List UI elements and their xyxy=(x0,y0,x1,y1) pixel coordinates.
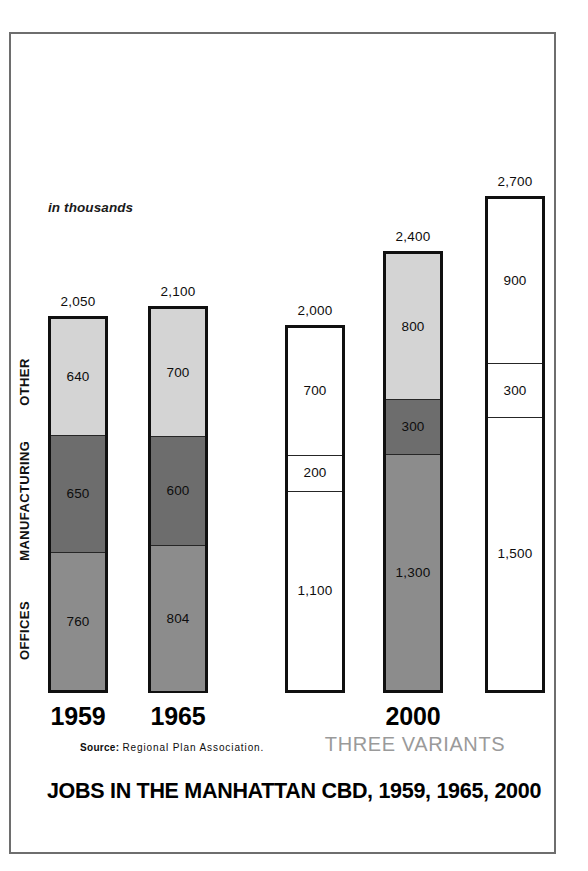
stacked-bar-2000-variant-b[interactable]: 800 300 1,300 xyxy=(383,251,443,693)
segment-value: 300 xyxy=(401,420,424,434)
chart-plot-area: in thousands OTHER MANUFACTURING OFFICES… xyxy=(0,0,588,871)
bar-segment-other: 640 xyxy=(51,319,105,435)
bar-segment-offices: 1,500 xyxy=(488,417,542,690)
segment-value: 760 xyxy=(66,615,89,629)
source-note: Source: Regional Plan Association. xyxy=(80,742,264,753)
segment-value: 300 xyxy=(503,384,526,398)
bar-segment-other: 800 xyxy=(386,254,440,399)
chart-page: in thousands OTHER MANUFACTURING OFFICES… xyxy=(0,0,588,871)
bar-segment-offices: 760 xyxy=(51,552,105,690)
segment-value: 650 xyxy=(66,487,89,501)
bar-segment-offices: 1,100 xyxy=(288,491,342,690)
stacked-bar-1959[interactable]: 640 650 760 xyxy=(48,316,108,693)
segment-value: 900 xyxy=(503,274,526,288)
source-lead: Source: xyxy=(80,742,119,753)
bar-segment-manufacturing: 600 xyxy=(151,436,205,545)
x-axis-label-2000: 2000 xyxy=(383,702,443,731)
axis-label-manufacturing: MANUFACTURING xyxy=(17,441,32,561)
stacked-bar-2000-variant-c[interactable]: 900 300 1,500 xyxy=(485,196,545,693)
segment-value: 1,500 xyxy=(498,547,533,561)
bar-total-label: 2,400 xyxy=(383,229,443,244)
bar-segment-manufacturing: 300 xyxy=(386,399,440,453)
x-axis-label-1959: 1959 xyxy=(48,702,108,731)
bar-total-label: 2,700 xyxy=(485,174,545,189)
bar-segment-other: 700 xyxy=(288,328,342,455)
bar-total-label: 2,000 xyxy=(285,303,345,318)
bar-segment-other: 900 xyxy=(488,199,542,363)
source-body: Regional Plan Association. xyxy=(122,742,264,753)
x-axis-label-1965: 1965 xyxy=(148,702,208,731)
bar-segment-manufacturing: 200 xyxy=(288,455,342,491)
segment-value: 1,300 xyxy=(396,566,431,580)
segment-value: 700 xyxy=(303,384,326,398)
axis-label-offices: OFFICES xyxy=(17,601,32,660)
bar-segment-offices: 1,300 xyxy=(386,454,440,690)
stacked-bar-2000-variant-a[interactable]: 700 200 1,100 xyxy=(285,325,345,693)
bar-segment-offices: 804 xyxy=(151,545,205,691)
segment-value: 200 xyxy=(303,466,326,480)
segment-value: 640 xyxy=(66,370,89,384)
segment-value: 804 xyxy=(166,612,189,626)
segment-value: 600 xyxy=(166,484,189,498)
three-variants-note: THREE VARIANTS xyxy=(265,733,565,756)
units-note: in thousands xyxy=(48,200,133,215)
segment-value: 800 xyxy=(401,320,424,334)
segment-value: 1,100 xyxy=(298,584,333,598)
stacked-bar-1965[interactable]: 700 600 804 xyxy=(148,306,208,693)
segment-value: 700 xyxy=(166,366,189,380)
axis-label-other: OTHER xyxy=(17,358,32,406)
bar-segment-other: 700 xyxy=(151,309,205,436)
bar-total-label: 2,100 xyxy=(148,284,208,299)
bar-segment-manufacturing: 300 xyxy=(488,363,542,418)
bar-total-label: 2,050 xyxy=(48,294,108,309)
chart-title: JOBS IN THE MANHATTAN CBD, 1959, 1965, 2… xyxy=(0,779,588,804)
bar-segment-manufacturing: 650 xyxy=(51,435,105,553)
